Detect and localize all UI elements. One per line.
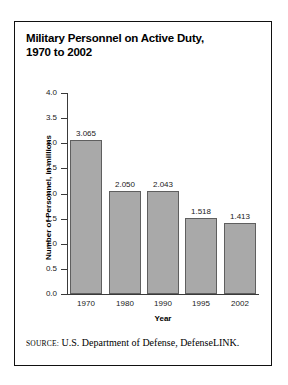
- y-axis-tick: [61, 244, 67, 245]
- y-axis-tick-label: 4.0: [31, 89, 57, 97]
- y-axis-tick: [61, 143, 67, 144]
- y-axis-line: [67, 93, 68, 295]
- y-axis-tick: [61, 194, 67, 195]
- x-axis-tick-label: 2002: [218, 299, 262, 308]
- source-label: SOURCE:: [26, 339, 59, 348]
- figure-frame: Military Personnel on Active Duty, 1970 …: [14, 21, 272, 366]
- x-axis-line: [67, 294, 259, 295]
- y-axis-tick: [61, 93, 67, 94]
- bar: [147, 191, 179, 294]
- y-axis-title: Number of Personnel, in millions: [44, 103, 53, 293]
- bar-value-label: 3.065: [62, 129, 110, 138]
- y-axis-tick: [61, 219, 67, 220]
- bar-value-label: 1.413: [216, 212, 264, 221]
- x-axis-tick-label: 1970: [64, 299, 108, 308]
- y-axis-tick: [61, 294, 67, 295]
- y-axis-tick: [61, 168, 67, 169]
- bar: [224, 223, 256, 294]
- bar: [185, 218, 217, 294]
- bar-value-label: 2.043: [139, 180, 187, 189]
- x-axis-title: Year: [67, 314, 259, 323]
- bar: [109, 191, 141, 294]
- source-note: SOURCE: U.S. Department of Defense, Defe…: [26, 337, 264, 350]
- x-axis-tick-label: 1995: [179, 299, 223, 308]
- y-axis-tick: [61, 118, 67, 119]
- bar: [70, 140, 102, 294]
- y-axis-tick: [61, 269, 67, 270]
- source-text: U.S. Department of Defense, DefenseLINK.: [62, 337, 240, 348]
- chart-plot-area: 0.00.51.01.52.02.53.03.54.0 3.0652.0502.…: [15, 22, 273, 367]
